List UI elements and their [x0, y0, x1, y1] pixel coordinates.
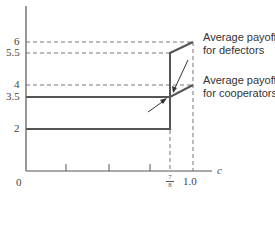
- cooperators-label-line2: for cooperators: [203, 87, 275, 99]
- cooperators-label-line1: Average payoff: [203, 74, 275, 86]
- x-tick-1-0: 1.0: [183, 175, 197, 187]
- cooperators-line: [26, 85, 193, 97]
- y-tick-4: 4: [14, 78, 20, 90]
- y-tick-2: 2: [14, 122, 20, 134]
- x-axis-ticks: [66, 164, 150, 171]
- defectors-label-line1: Average payoff: [203, 31, 275, 43]
- x-origin-label: 0: [16, 176, 22, 188]
- x-tick-7-8: 7 8: [166, 174, 174, 189]
- annotation-arrows: [148, 60, 188, 112]
- x-axis-label: c: [217, 164, 222, 176]
- defectors-label-line2: for defectors: [203, 44, 264, 56]
- defectors-line: [26, 42, 193, 129]
- reference-lines: [26, 42, 193, 171]
- y-tick-3-5: 3.5: [6, 90, 20, 102]
- y-tick-5-5: 5.5: [6, 46, 20, 58]
